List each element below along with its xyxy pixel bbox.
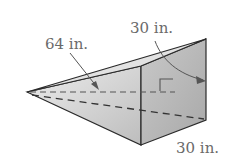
pyramid-diagram: 64 in. 30 in. 30 in. (0, 0, 230, 167)
base-label: 30 in. (176, 139, 219, 157)
diagram-canvas: 64 in. 30 in. 30 in. (0, 0, 230, 167)
slant-label: 64 in. (45, 35, 88, 53)
height-label: 30 in. (130, 19, 173, 37)
